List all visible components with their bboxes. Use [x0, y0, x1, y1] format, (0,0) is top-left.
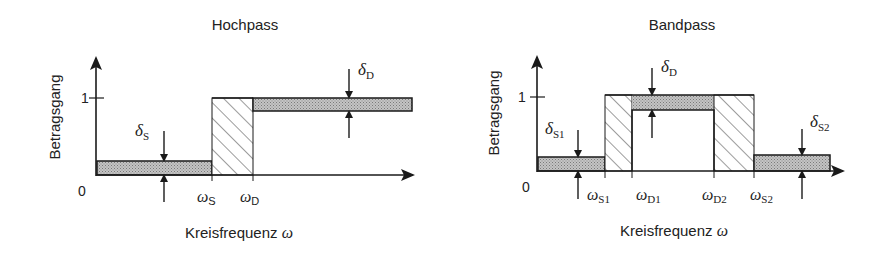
- hochpass-omega-s-label: ωS: [197, 188, 216, 207]
- bandpass-transition2-band: [714, 95, 754, 171]
- bandpass-omega-s1-label: ωS1: [587, 186, 610, 205]
- diagram-canvas: Hochpass Betragsgang 1 0 ωS ωD δS δD Kre…: [0, 0, 875, 256]
- bandpass-omega-s2-label: ωS2: [750, 186, 773, 205]
- bandpass-delta-s2-label: δS2: [810, 112, 830, 133]
- bandpass-omega-d1-label: ωD1: [636, 186, 661, 205]
- bandpass-delta-s1-label: δS1: [545, 119, 565, 140]
- hochpass-title: Hochpass: [212, 16, 279, 33]
- bandpass-xlabel: Kreisfrequenz ω: [620, 222, 728, 239]
- bandpass-tick-zero-label: 0: [522, 179, 530, 195]
- bandpass-passband-tolerance: [632, 95, 714, 110]
- bandpass-stopband1-tolerance: [538, 157, 605, 171]
- bandpass-transition1-band: [605, 95, 632, 171]
- hochpass-delta-d-label: δD: [358, 60, 374, 81]
- hochpass-transition-band: [212, 98, 253, 175]
- bandpass-tick-one-label: 1: [518, 89, 526, 105]
- bandpass-delta-d-label: δD: [661, 57, 677, 78]
- bandpass-ylabel: Betragsgang: [485, 70, 502, 155]
- hochpass-delta-s-label: δS: [135, 121, 149, 142]
- bandpass-title: Bandpass: [649, 16, 716, 33]
- hochpass-tick-zero-label: 0: [78, 183, 86, 199]
- bandpass-stopband2-tolerance: [754, 155, 830, 171]
- bandpass-chart: Bandpass Betragsgang 1 0 ωS1 ωD1 ωD2 ωS2: [485, 16, 843, 239]
- hochpass-stopband-tolerance: [97, 161, 212, 175]
- hochpass-chart: Hochpass Betragsgang 1 0 ωS ωD δS δD Kre…: [46, 16, 413, 241]
- hochpass-passband-tolerance: [253, 98, 412, 111]
- filter-tolerance-diagram: Hochpass Betragsgang 1 0 ωS ωD δS δD Kre…: [0, 0, 875, 256]
- hochpass-xlabel: Kreisfrequenz ω: [185, 224, 293, 241]
- bandpass-omega-d2-label: ωD2: [702, 186, 727, 205]
- hochpass-tick-one-label: 1: [81, 90, 89, 106]
- hochpass-ylabel: Betragsgang: [46, 74, 63, 159]
- hochpass-omega-d-label: ωD: [240, 188, 259, 207]
